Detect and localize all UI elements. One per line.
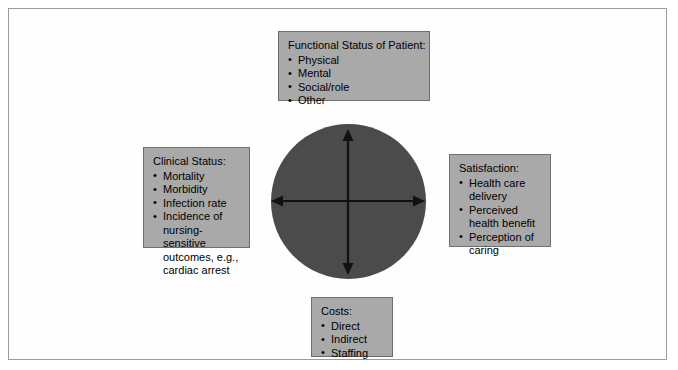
list-item-label: Indirect	[331, 333, 367, 345]
list-item: •Social/role	[288, 81, 420, 95]
list-item: •Mortality	[153, 170, 240, 184]
list-item: •Other	[288, 94, 420, 108]
four-way-arrow-icon	[264, 121, 434, 283]
bullet-icon: •	[321, 346, 325, 360]
list-item-label: Mortality	[163, 170, 205, 182]
bullet-icon: •	[288, 80, 292, 94]
box-functional-status-title: Functional Status of Patient:	[288, 39, 420, 53]
bullet-icon: •	[288, 94, 292, 108]
list-item-label: Physical	[298, 54, 339, 66]
bullet-icon: •	[459, 176, 463, 190]
list-item-label: Mental	[298, 67, 331, 79]
list-item: •Perception of caring	[459, 231, 541, 258]
box-costs-title: Costs:	[321, 305, 383, 319]
box-satisfaction-list: •Health care delivery •Perceived health …	[459, 177, 541, 258]
list-item-label: Health care delivery	[469, 177, 525, 203]
bullet-icon: •	[321, 319, 325, 333]
box-satisfaction[interactable]: Satisfaction: •Health care delivery •Per…	[449, 154, 551, 247]
list-item: •Morbidity	[153, 183, 240, 197]
list-item: •Mental	[288, 67, 420, 81]
box-functional-status[interactable]: Functional Status of Patient: •Physical …	[278, 31, 430, 101]
list-item: •Physical	[288, 54, 420, 68]
list-item: •Incidence of nursing-sensitive outcomes…	[153, 210, 240, 278]
box-costs-list: •Direct •Indirect •Staffing	[321, 320, 383, 361]
list-item: •Health care delivery	[459, 177, 541, 204]
list-item: •Infection rate	[153, 197, 240, 211]
list-item-label: Direct	[331, 320, 360, 332]
list-item: •Indirect	[321, 333, 383, 347]
list-item: •Perceived health benefit	[459, 204, 541, 231]
list-item-label: Staffing	[331, 347, 368, 359]
list-item-label: Social/role	[298, 81, 349, 93]
diagram-frame: Functional Status of Patient: •Physical …	[8, 8, 667, 360]
bullet-icon: •	[288, 67, 292, 81]
bullet-icon: •	[459, 203, 463, 217]
box-clinical-status-list: •Mortality •Morbidity •Infection rate •I…	[153, 170, 240, 278]
diagram-canvas: Functional Status of Patient: •Physical …	[0, 0, 678, 370]
list-item: •Direct	[321, 320, 383, 334]
list-item-label: Incidence of nursing-sensitive outcomes,…	[163, 210, 238, 276]
list-item-label: Other	[298, 94, 326, 106]
box-satisfaction-title: Satisfaction:	[459, 162, 541, 176]
list-item-label: Infection rate	[163, 197, 227, 209]
bullet-icon: •	[153, 196, 157, 210]
box-functional-status-list: •Physical •Mental •Social/role •Other	[288, 54, 420, 108]
box-costs[interactable]: Costs: •Direct •Indirect •Staffing	[311, 297, 393, 357]
bullet-icon: •	[459, 230, 463, 244]
list-item-label: Morbidity	[163, 183, 208, 195]
bullet-icon: •	[288, 53, 292, 67]
list-item-label: Perceived health benefit	[469, 204, 535, 230]
bullet-icon: •	[153, 183, 157, 197]
bullet-icon: •	[321, 333, 325, 347]
list-item-label: Perception of caring	[469, 231, 534, 257]
bullet-icon: •	[153, 210, 157, 224]
box-clinical-status[interactable]: Clinical Status: •Mortality •Morbidity •…	[143, 147, 250, 248]
list-item: •Staffing	[321, 347, 383, 361]
bullet-icon: •	[153, 169, 157, 183]
box-clinical-status-title: Clinical Status:	[153, 155, 240, 169]
